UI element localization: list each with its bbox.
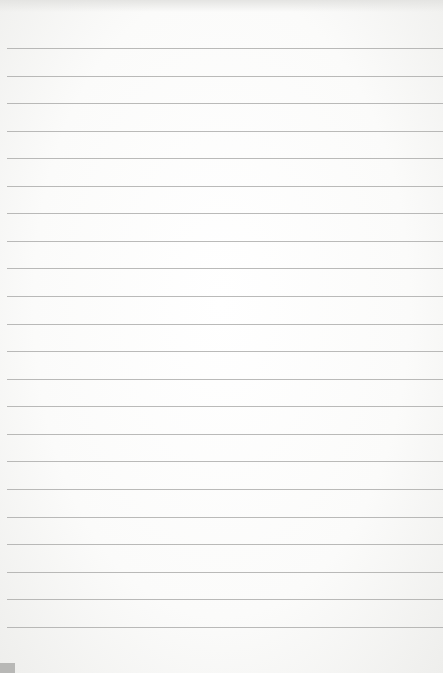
ruled-line [7, 131, 443, 132]
ruled-line [7, 379, 443, 380]
ruled-line [7, 48, 443, 49]
ruled-line [7, 489, 443, 490]
ruled-line [7, 268, 443, 269]
ruled-line [7, 324, 443, 325]
paper-top-edge [0, 0, 443, 12]
ruled-line [7, 461, 443, 462]
paper-corner-shadow [0, 663, 15, 673]
ruled-line [7, 627, 443, 628]
ruled-line [7, 213, 443, 214]
ruled-line [7, 296, 443, 297]
lined-paper [0, 0, 443, 673]
ruled-line [7, 517, 443, 518]
ruled-line [7, 544, 443, 545]
ruled-line [7, 434, 443, 435]
ruled-line [7, 103, 443, 104]
ruled-line [7, 158, 443, 159]
ruled-line [7, 241, 443, 242]
ruled-line [7, 599, 443, 600]
ruled-line [7, 572, 443, 573]
ruled-line [7, 351, 443, 352]
ruled-line [7, 76, 443, 77]
ruled-line [7, 406, 443, 407]
ruled-line [7, 186, 443, 187]
